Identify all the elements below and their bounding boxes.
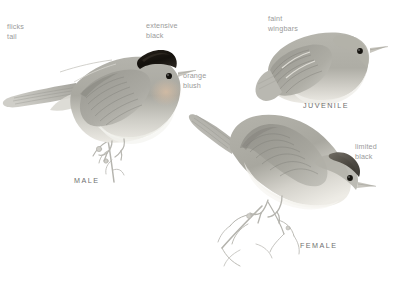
female-eye: [347, 175, 353, 181]
form-label-female: FEMALE: [300, 241, 337, 250]
annotation-extensive-black: extensive black: [146, 21, 178, 40]
illustration-plate: flicks tail extensive black orange blush…: [0, 0, 402, 283]
female-tail: [189, 114, 234, 154]
annotation-flicks-tail: flicks tail: [7, 22, 24, 41]
annotation-limited-black: limited black: [355, 142, 377, 161]
annotation-faint-wingbars: faint wingbars: [268, 14, 298, 33]
female-bird-illustration: [0, 0, 402, 283]
female-perch-twig: [218, 202, 299, 266]
form-label-male: MALE: [74, 176, 99, 185]
annotation-orange-blush: orange blush: [183, 71, 206, 90]
form-label-juvenile: JUVENILE: [303, 101, 349, 110]
